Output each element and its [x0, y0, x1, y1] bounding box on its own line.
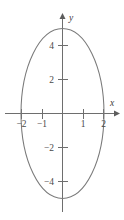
y-tick-label-4: 4	[49, 41, 54, 51]
y-tick-label-2: 2	[49, 75, 54, 85]
x-axis-arrow-icon	[114, 111, 120, 117]
x-tick-label-minus-1: −1	[37, 119, 47, 129]
y-axis-arrow-icon	[60, 13, 66, 19]
y-tick-label-minus-4: −4	[44, 177, 54, 187]
x-tick-label-2: 2	[101, 119, 106, 129]
coordinate-plane: −2 −1 1 2 4 2 −2 −4 x y	[0, 0, 124, 220]
y-axis-label: y	[68, 13, 74, 23]
x-tick-label-minus-2: −2	[16, 119, 26, 129]
x-tick-label-1: 1	[81, 119, 86, 129]
x-axis-label: x	[109, 98, 115, 108]
graph-figure: −2 −1 1 2 4 2 −2 −4 x y	[0, 0, 124, 220]
y-tick-label-minus-2: −2	[44, 143, 54, 153]
